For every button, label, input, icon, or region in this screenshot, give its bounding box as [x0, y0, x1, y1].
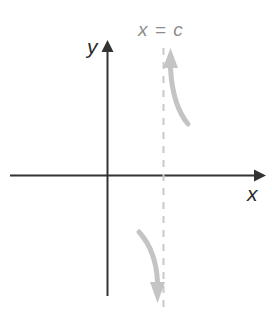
upper-branch-arrow — [163, 48, 188, 124]
x-axis-label: x — [246, 182, 259, 205]
x-axis — [10, 170, 266, 182]
x-axis-arrowhead-icon — [254, 170, 266, 182]
asymptote-label: x = c — [137, 19, 184, 40]
lower-branch-arrow — [139, 232, 165, 303]
upper-branch-arrowhead-icon — [163, 48, 178, 68]
graph-figure: x = c y x — [0, 0, 272, 312]
y-axis — [102, 40, 114, 296]
upper-branch-curve — [171, 68, 189, 124]
y-axis-label: y — [85, 35, 99, 58]
y-axis-arrowhead-icon — [102, 40, 114, 52]
lower-branch-curve — [139, 232, 158, 282]
coordinate-plane-svg: x = c y x — [0, 0, 272, 312]
